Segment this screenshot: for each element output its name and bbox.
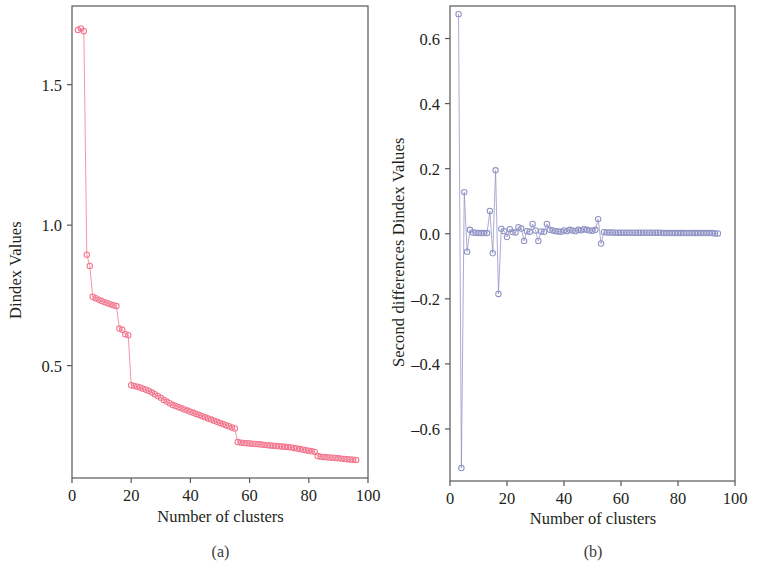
- plot-area-a: 0204060801000.51.01.5: [0, 0, 390, 568]
- y-tick-label-a-1: 1.0: [41, 216, 62, 235]
- x-tick-label-b-3: 60: [613, 489, 630, 508]
- caption-a: (a): [72, 543, 369, 561]
- series-a: [75, 26, 359, 463]
- y-tick-label-a-0: 0.5: [41, 357, 62, 376]
- y-tick-label-b-3: 0.0: [419, 225, 440, 244]
- y-tick-label-b-2: –0.2: [410, 290, 440, 309]
- x-tick-label-a-3: 60: [241, 486, 258, 505]
- x-tick-label-b-4: 80: [670, 489, 687, 508]
- x-tick-label-a-5: 100: [356, 486, 381, 505]
- x-tick-label-b-1: 20: [499, 489, 516, 508]
- panel-b: Second differences Dindex Values 0204060…: [385, 0, 761, 568]
- x-tick-label-a-4: 80: [301, 486, 318, 505]
- x-axis-label-b: Number of clusters: [450, 509, 736, 529]
- y-tick-label-a-2: 1.5: [41, 76, 62, 95]
- y-tick-label-b-0: –0.6: [410, 420, 440, 439]
- caption-b: (b): [450, 543, 736, 561]
- y-tick-label-b-1: –0.4: [410, 355, 440, 374]
- figure-container: Dindex Values 0204060801000.51.01.5 Numb…: [0, 0, 761, 568]
- x-axis-label-a: Number of clusters: [72, 507, 369, 527]
- series-b: [456, 0, 724, 471]
- x-tick-label-b-2: 40: [556, 489, 573, 508]
- x-tick-label-a-1: 20: [123, 486, 140, 505]
- data-point: [718, 0, 723, 3]
- plot-frame-a: [72, 6, 368, 478]
- x-tick-label-a-2: 40: [182, 486, 199, 505]
- x-tick-label-b-5: 100: [723, 489, 748, 508]
- y-tick-label-b-4: 0.2: [419, 160, 440, 179]
- x-tick-label-a-0: 0: [68, 486, 76, 505]
- y-tick-label-b-6: 0.6: [419, 30, 440, 49]
- panel-a: Dindex Values 0204060801000.51.01.5 Numb…: [0, 0, 390, 568]
- x-tick-label-b-0: 0: [446, 489, 454, 508]
- y-tick-label-b-5: 0.4: [419, 95, 440, 114]
- plot-area-b: 020406080100–0.6–0.4–0.20.00.20.40.6: [385, 0, 761, 568]
